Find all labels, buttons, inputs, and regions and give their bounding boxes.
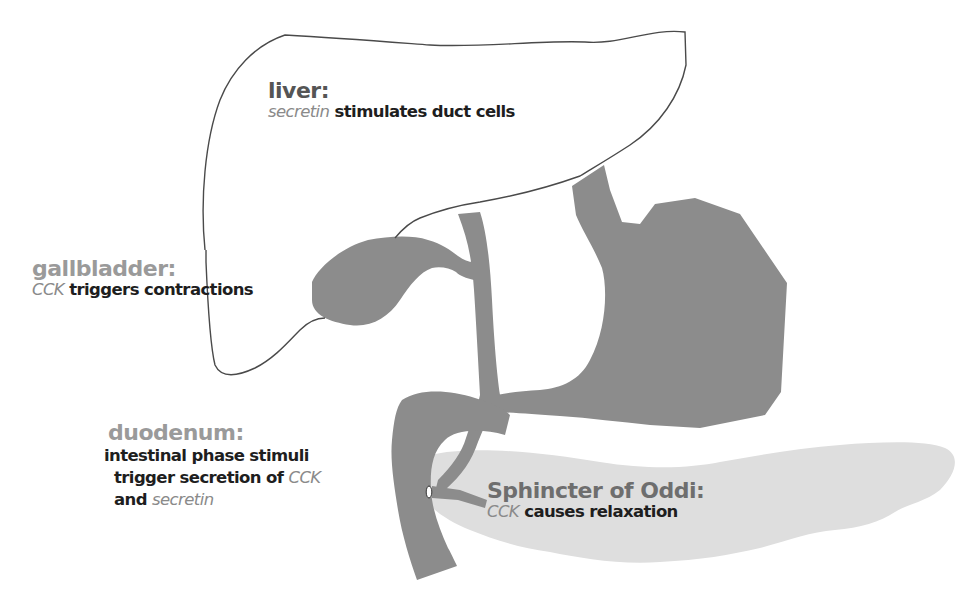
gallbladder-title: gallbladder: [32, 256, 253, 281]
sphincter-of-oddi-marker [426, 486, 432, 498]
gallbladder-label: gallbladder: CCK triggers contractions [32, 256, 253, 300]
liver-title: liver: [268, 78, 515, 103]
duodenum-hormone-secretin: secretin [152, 490, 213, 509]
duodenum-title: duodenum: [108, 420, 321, 445]
liver-label: liver: secretin stimulates duct cells [268, 78, 515, 122]
duodenum-desc-line2: trigger secretion of CCK [114, 467, 321, 489]
stomach-shape [470, 165, 787, 428]
duodenum-desc-line1: intestinal phase stimuli [104, 445, 321, 467]
duodenum-line3-text: and [114, 490, 152, 509]
duodenum-description: intestinal phase stimuli trigger secreti… [104, 445, 321, 510]
sphincter-description: CCK causes relaxation [487, 503, 704, 522]
liver-desc-text: stimulates duct cells [329, 102, 514, 121]
gallbladder-desc-text: triggers contractions [64, 280, 253, 299]
duodenum-desc-line3: and secretin [114, 489, 321, 511]
gallbladder-description: CCK triggers contractions [32, 281, 253, 300]
duodenum-label: duodenum: intestinal phase stimuli trigg… [104, 420, 321, 511]
sphincter-desc-text: causes relaxation [519, 502, 678, 521]
liver-description: secretin stimulates duct cells [268, 103, 515, 122]
liver-hormone: secretin [268, 102, 329, 121]
gallbladder-hormone: CCK [32, 280, 64, 299]
sphincter-hormone: CCK [487, 502, 519, 521]
sphincter-title: Sphincter of Oddi: [487, 478, 704, 503]
gallbladder-shape [312, 237, 474, 326]
duodenum-line2-text: trigger secretion of [114, 468, 289, 487]
duodenum-hormone-cck: CCK [289, 468, 321, 487]
sphincter-label: Sphincter of Oddi: CCK causes relaxation [487, 478, 704, 522]
